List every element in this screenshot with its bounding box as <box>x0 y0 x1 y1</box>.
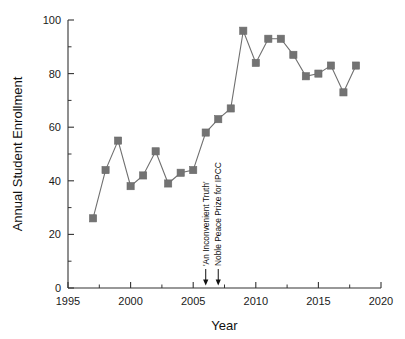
data-point-marker <box>152 148 159 155</box>
data-point-marker <box>102 166 109 173</box>
y-axis-title: Annual Student Enrollment <box>10 76 25 231</box>
data-line <box>93 31 356 219</box>
x-tick-label: 2015 <box>306 295 330 307</box>
data-point-marker <box>89 215 96 222</box>
chart-annotation-label: Noble Peace Prize for IPCC <box>213 162 223 266</box>
y-tick-label: 20 <box>49 228 61 240</box>
y-tick-label: 40 <box>49 175 61 187</box>
x-tick-label: 2000 <box>118 295 142 307</box>
data-point-marker <box>352 62 359 69</box>
data-point-marker <box>302 73 309 80</box>
x-tick-label: 1995 <box>56 295 80 307</box>
x-tick-label: 2010 <box>244 295 268 307</box>
data-point-marker <box>227 105 234 112</box>
y-tick-label: 0 <box>55 282 61 294</box>
y-tick-label: 60 <box>49 121 61 133</box>
data-point-marker <box>290 51 297 58</box>
x-axis-title: Year <box>211 318 238 333</box>
chart-figure: 199520002005201020152020020406080100'An … <box>0 0 405 339</box>
annotation-arrow-head <box>216 280 221 286</box>
data-point-marker <box>252 59 259 66</box>
enrollment-line-chart: 199520002005201020152020020406080100'An … <box>0 0 405 339</box>
data-point-marker <box>177 169 184 176</box>
data-point-marker <box>114 137 121 144</box>
x-tick-label: 2020 <box>369 295 393 307</box>
data-point-marker <box>277 35 284 42</box>
chart-annotation-label: 'An Inconvenient Truth' <box>201 181 211 266</box>
y-tick-label: 100 <box>43 14 61 26</box>
data-point-marker <box>315 70 322 77</box>
data-point-marker <box>265 35 272 42</box>
data-point-marker <box>327 62 334 69</box>
y-tick-label: 80 <box>49 68 61 80</box>
data-point-marker <box>127 183 134 190</box>
data-point-marker <box>215 116 222 123</box>
x-tick-label: 2005 <box>181 295 205 307</box>
annotation-arrow-head <box>203 280 208 286</box>
data-point-marker <box>165 180 172 187</box>
data-point-marker <box>140 172 147 179</box>
data-point-marker <box>190 166 197 173</box>
data-point-marker <box>202 129 209 136</box>
data-point-marker <box>240 27 247 34</box>
data-point-marker <box>340 89 347 96</box>
